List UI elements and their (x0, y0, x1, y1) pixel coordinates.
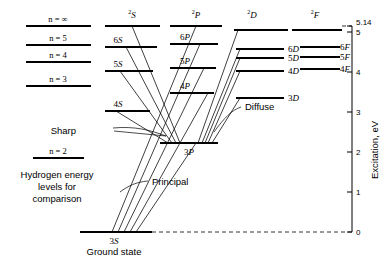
hydrogen-label-3: n = 3 (49, 74, 67, 84)
principal-leader-line (120, 181, 148, 192)
column-F: 2F 6F 5F 4F (292, 9, 351, 74)
axis-tick-label-1: 1 (356, 188, 361, 197)
level-label-4S: 4S (114, 99, 124, 109)
hydrogen-caption-line-1: Hydrogen energy (21, 169, 94, 180)
axis-tick-label-5: 5 (356, 28, 361, 37)
diagram-canvas: n = ∞ n = 5 n = 4 n = 3 n = 2 Hydrogen e… (0, 0, 391, 259)
hydrogen-label-4: n = 4 (49, 50, 67, 60)
column-header-D: 2D (247, 9, 257, 20)
column-header-S: 2S (128, 9, 136, 20)
level-label-4D: 4D (288, 66, 300, 76)
column-header-F: 2F (311, 9, 320, 20)
axis-tick-label-3: 3 (356, 108, 361, 117)
hydrogen-label-5: n = 5 (49, 33, 67, 43)
hydrogen-caption-line-2: levels for (38, 181, 76, 192)
column-P: 2P 6P 5P 4P 3P (160, 9, 222, 157)
hydrogen-label-2: n = 2 (49, 146, 67, 156)
level-label-3P: 3P (184, 147, 195, 157)
level-label-5D: 5D (288, 53, 300, 63)
level-label-5F: 5F (340, 52, 351, 62)
axis-title: Excitation, eV (369, 120, 380, 179)
axis-tick-label-0: 0 (356, 228, 361, 237)
column-D: 2D 6D 5D 4D 3D (234, 9, 300, 103)
axis-tick-label-4: 4 (356, 68, 361, 77)
principal-series-transitions (112, 26, 208, 232)
level-label-5S: 5S (114, 59, 124, 69)
ground-state-caption: Ground state (87, 246, 142, 257)
hydrogen-caption-line-3: comparison (32, 193, 81, 204)
diffuse-series-transitions (198, 30, 240, 143)
annotation-diffuse: Diffuse (245, 101, 274, 112)
level-label-3S: 3S (110, 236, 120, 246)
column-header-P: 2P (192, 9, 201, 20)
level-label-6S: 6S (114, 35, 124, 45)
energy-level-diagram: n = ∞ n = 5 n = 4 n = 3 n = 2 Hydrogen e… (0, 0, 391, 259)
hydrogen-levels-group: n = ∞ n = 5 n = 4 n = 3 n = 2 Hydrogen e… (21, 14, 94, 204)
level-label-5P: 5P (180, 56, 191, 66)
level-label-6P: 6P (180, 32, 191, 42)
axis-tick-label-limit: 5.14 (356, 18, 372, 27)
level-label-4P: 4P (180, 81, 191, 91)
level-label-3D: 3D (288, 93, 300, 103)
excitation-axis: 0 1 2 3 4 5 5.14 Excitation, eV (347, 18, 380, 237)
axis-tick-label-2: 2 (356, 148, 361, 157)
annotation-sharp: Sharp (51, 125, 76, 136)
annotation-principal: Principal (152, 176, 188, 187)
hydrogen-label-inf: n = ∞ (48, 14, 67, 24)
level-label-6F: 6F (340, 42, 351, 52)
ground-state-group: 3S Ground state (80, 232, 352, 257)
